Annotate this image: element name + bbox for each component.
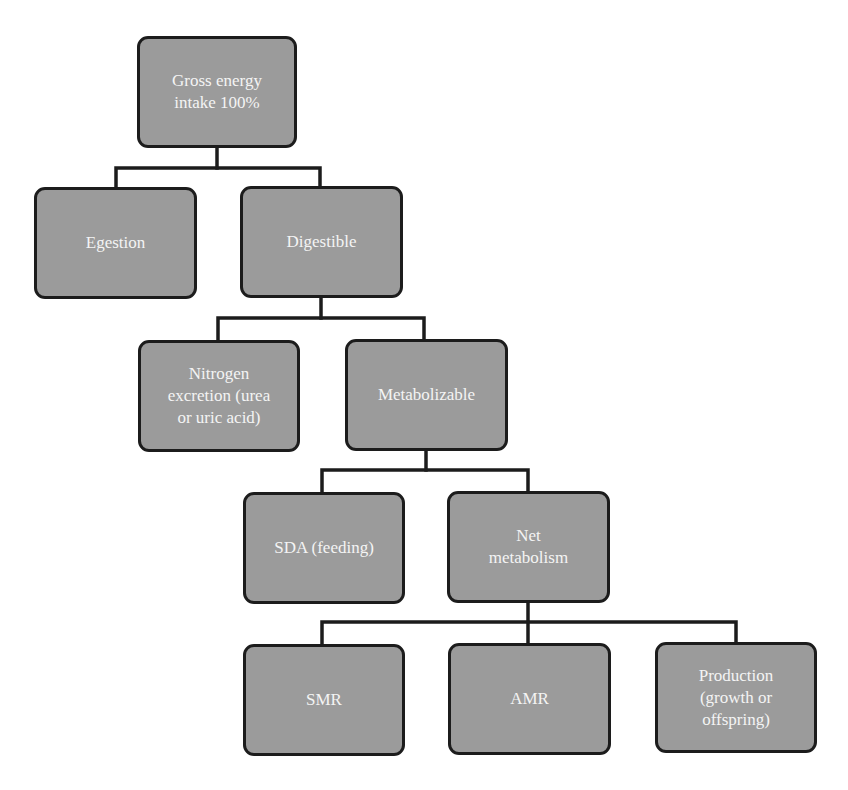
node-nitrogen-excretion: Nitrogen excretion (urea or uric acid) (138, 340, 300, 452)
energy-flow-diagram: Gross energy intake 100% Egestion Digest… (0, 0, 848, 790)
node-egestion: Egestion (34, 187, 197, 299)
connector-gross-children (116, 168, 320, 187)
connector-digestible-children (218, 318, 424, 340)
node-smr: SMR (243, 644, 405, 756)
node-production: Production (growth or offspring) (655, 642, 817, 753)
node-digestible: Digestible (240, 186, 403, 298)
node-gross-energy-intake: Gross energy intake 100% (137, 36, 297, 148)
node-amr: AMR (448, 643, 611, 755)
connector-metabolizable-children (322, 470, 528, 492)
node-net-metabolism: Net metabolism (447, 491, 610, 603)
node-metabolizable: Metabolizable (345, 339, 508, 451)
node-sda-feeding: SDA (feeding) (243, 492, 405, 604)
